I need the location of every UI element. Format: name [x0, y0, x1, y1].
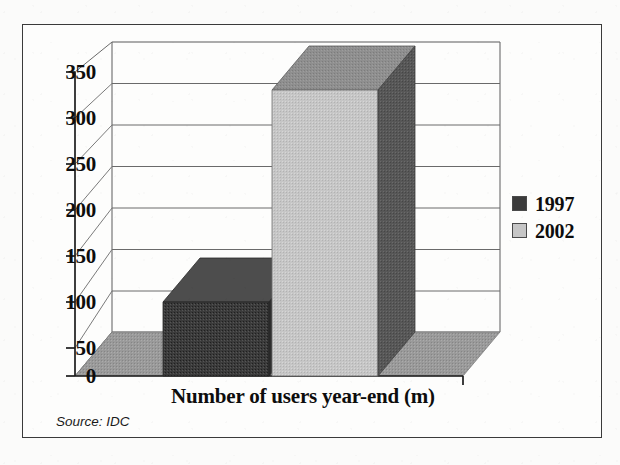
legend: 1997 2002 — [512, 190, 574, 244]
y-tick-100: 100 — [34, 292, 96, 313]
legend-item-2002: 2002 — [512, 217, 574, 244]
legend-label-2002: 2002 — [535, 221, 574, 241]
x-axis-title: Number of users year-end (m) — [118, 384, 488, 409]
y-tick-50: 50 — [34, 338, 96, 359]
y-tick-150: 150 — [34, 246, 96, 267]
legend-swatch-1997 — [512, 196, 527, 211]
source-note: Source: IDC — [56, 414, 130, 429]
y-tick-0: 0 — [34, 366, 96, 387]
y-axis-tick-labels: 350 300 250 200 150 100 50 0 — [26, 0, 96, 465]
legend-swatch-2002 — [512, 223, 527, 238]
legend-label-1997: 1997 — [535, 194, 574, 214]
y-tick-350: 350 — [34, 62, 96, 83]
y-tick-250: 250 — [34, 154, 96, 175]
chart-image: 350 300 250 200 150 100 50 0 Number of u… — [0, 0, 620, 465]
y-tick-200: 200 — [34, 200, 96, 221]
y-tick-300: 300 — [34, 108, 96, 129]
legend-item-1997: 1997 — [512, 190, 574, 217]
